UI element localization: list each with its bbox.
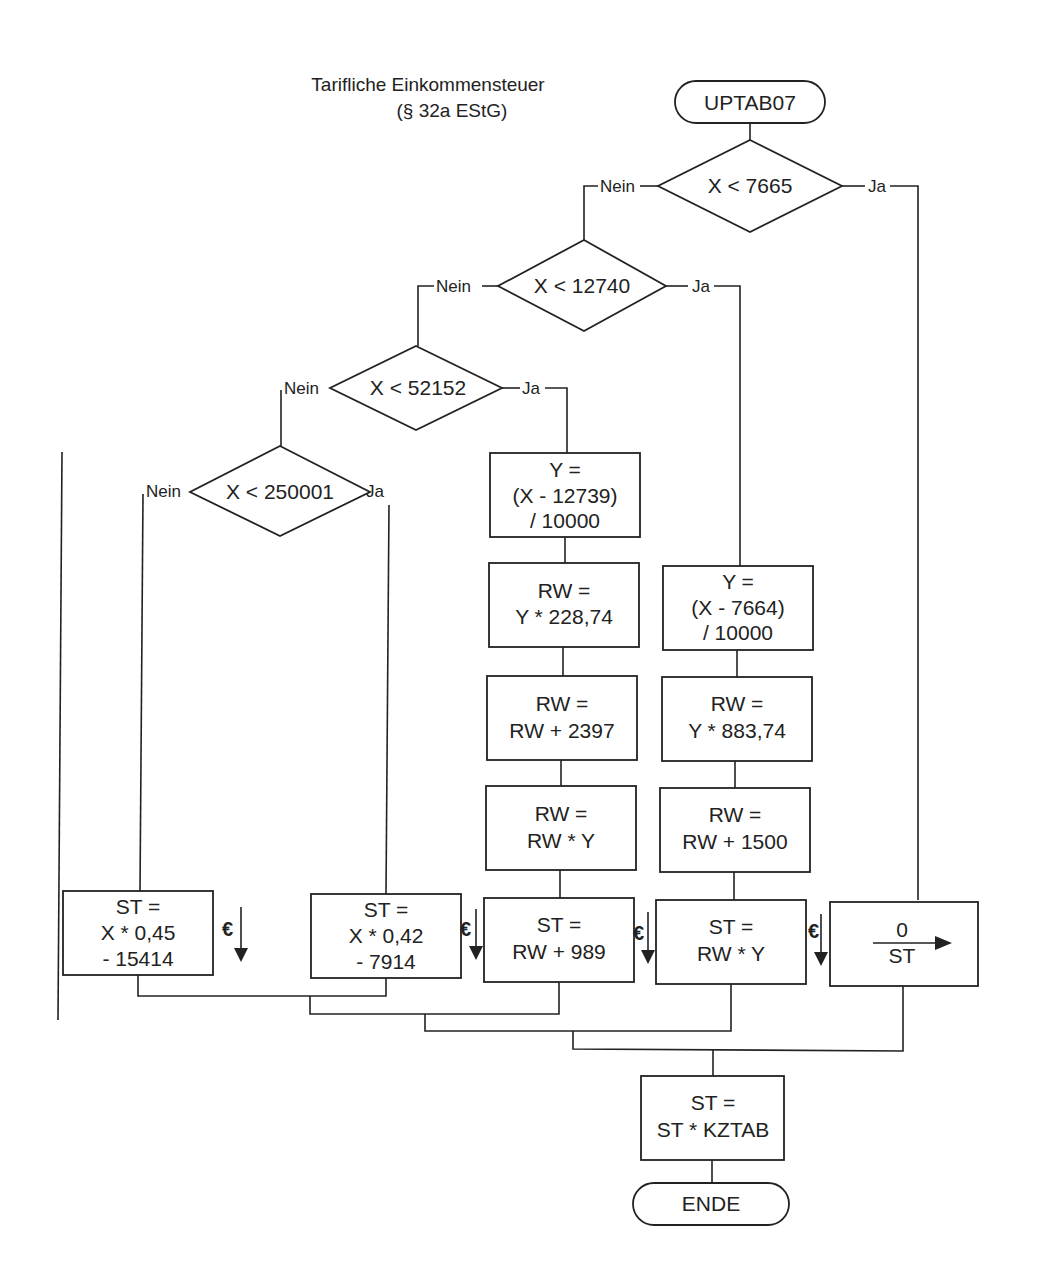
decision-4-no-label: Nein [146, 482, 181, 501]
arrow-down-icon [641, 950, 655, 964]
svg-text:X * 0,45: X * 0,45 [101, 921, 176, 944]
euro-rounding-indicator-2: € [460, 909, 483, 960]
margin-line [58, 452, 62, 1020]
svg-text:RW * Y: RW * Y [697, 942, 765, 965]
decision-3-yes-label: Ja [522, 379, 541, 398]
svg-text:RW + 1500: RW + 1500 [682, 830, 787, 853]
zone3-step-st: ST = X * 0,42 - 7914 [311, 894, 461, 978]
start-label: UPTAB07 [704, 91, 796, 114]
euro-icon: € [222, 918, 233, 940]
svg-text:RW + 2397: RW + 2397 [509, 719, 614, 742]
decision-x-lt-7665: X < 7665 [658, 140, 842, 232]
final-step-st-kztab: ST = ST * KZTAB [641, 1076, 784, 1160]
svg-text:- 7914: - 7914 [356, 950, 416, 973]
euro-rounding-indicator-3: € [633, 912, 655, 964]
decision-2-no-label: Nein [436, 277, 471, 296]
euro-rounding-indicator-4: € [808, 914, 828, 966]
svg-text:RW + 989: RW + 989 [512, 940, 606, 963]
decision-1-no-label: Nein [600, 177, 635, 196]
svg-text:RW =: RW = [709, 803, 762, 826]
end-label: ENDE [682, 1192, 740, 1215]
svg-text:ST =: ST = [691, 1091, 736, 1114]
svg-text:0: 0 [896, 918, 908, 941]
end-terminator: ENDE [633, 1183, 789, 1225]
euro-icon: € [633, 922, 644, 944]
zone2-step-y: Y = (X - 12739) / 10000 [490, 453, 640, 537]
zone2-step-rw-add: RW = RW + 2397 [487, 676, 637, 760]
zone2-step-st: ST = RW + 989 [484, 898, 634, 982]
zone2-step-rw-times-y: RW = RW * Y [486, 786, 636, 870]
zero-step-st: 0 ST [830, 902, 978, 986]
decision-4-yes-label: Ja [366, 482, 385, 501]
svg-text:ST * KZTAB: ST * KZTAB [657, 1118, 769, 1141]
svg-text:ST: ST [889, 944, 916, 967]
decision-condition: X < 250001 [226, 480, 334, 503]
decision-1-yes-label: Ja [868, 177, 887, 196]
svg-text:RW =: RW = [711, 692, 764, 715]
svg-text:RW =: RW = [535, 802, 588, 825]
zone1-step-rw-add: RW = RW + 1500 [660, 788, 810, 872]
svg-text:Y =: Y = [722, 570, 754, 593]
svg-text:Y =: Y = [549, 458, 581, 481]
euro-rounding-indicator-1: € [222, 907, 248, 962]
zone1-step-rw-mult: RW = Y * 883,74 [662, 677, 812, 761]
arrow-down-icon [234, 948, 248, 962]
svg-text:ST =: ST = [364, 898, 409, 921]
zone1-step-st: ST = RW * Y [656, 900, 806, 984]
flowchart: Tarifliche Einkommensteuer (§ 32a EStG) … [0, 0, 1038, 1282]
zone4-step-st: ST = X * 0,45 - 15414 [63, 891, 213, 975]
svg-text:(X - 7664): (X - 7664) [691, 596, 784, 619]
svg-text:Y * 883,74: Y * 883,74 [688, 719, 786, 742]
zone2-step-rw-mult: RW = Y * 228,74 [489, 563, 639, 647]
svg-text:RW * Y: RW * Y [527, 829, 595, 852]
zone1-step-y: Y = (X - 7664) / 10000 [663, 566, 813, 650]
decision-2-yes-label: Ja [692, 277, 711, 296]
svg-text:ST =: ST = [116, 895, 161, 918]
svg-text:/ 10000: / 10000 [703, 621, 773, 644]
svg-text:ST =: ST = [709, 915, 754, 938]
svg-text:RW =: RW = [538, 579, 591, 602]
decision-3-no-label: Nein [284, 379, 319, 398]
decision-x-lt-12740: X < 12740 [498, 240, 666, 331]
svg-text:ST =: ST = [537, 913, 582, 936]
svg-text:RW =: RW = [536, 692, 589, 715]
start-terminator: UPTAB07 [675, 81, 825, 123]
svg-text:/ 10000: / 10000 [530, 509, 600, 532]
svg-text:Y * 228,74: Y * 228,74 [515, 605, 613, 628]
title-line-1: Tarifliche Einkommensteuer [311, 74, 545, 95]
decision-condition: X < 7665 [708, 174, 793, 197]
arrow-down-icon [814, 952, 828, 966]
decision-x-lt-250001: X < 250001 [190, 446, 370, 536]
svg-text:X * 0,42: X * 0,42 [349, 924, 424, 947]
svg-text:- 15414: - 15414 [102, 947, 174, 970]
euro-icon: € [808, 920, 819, 942]
arrow-down-icon [469, 946, 483, 960]
svg-text:(X - 12739): (X - 12739) [512, 484, 617, 507]
decision-condition: X < 12740 [534, 274, 630, 297]
title-line-2: (§ 32a EStG) [397, 100, 508, 121]
decision-x-lt-52152: X < 52152 [330, 346, 502, 430]
decision-condition: X < 52152 [370, 376, 466, 399]
euro-icon: € [460, 918, 471, 940]
